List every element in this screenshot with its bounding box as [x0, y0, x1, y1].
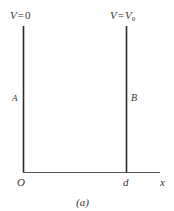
origin-label: O: [17, 176, 25, 188]
parallel-plates-diagram: V=0 V=V0 A B O d x (a): [0, 0, 174, 211]
figure-caption: (a): [76, 196, 89, 209]
x-axis-label: x: [159, 176, 165, 188]
plate-a-label: A: [11, 93, 18, 103]
plate-a-potential-label: V=0: [10, 9, 31, 21]
plate-b-potential-label: V=V0: [110, 9, 136, 23]
d-tick-label: d: [123, 176, 129, 188]
plate-b-label: B: [131, 92, 137, 103]
